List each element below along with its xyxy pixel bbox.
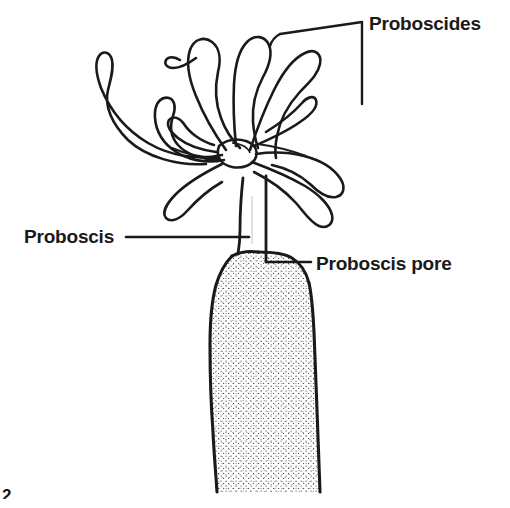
- label-proboscis-pore: Proboscis pore: [316, 254, 452, 273]
- proboscides-bracket: [270, 22, 362, 104]
- label-proboscides: Proboscides: [369, 14, 481, 33]
- figure-container: Proboscides Proboscis Proboscis pore 2: [0, 0, 510, 508]
- figure-number: 2: [2, 487, 11, 499]
- label-proboscis: Proboscis: [24, 227, 114, 246]
- proboscis-stalk: [238, 176, 266, 262]
- body-stippled: [210, 252, 320, 492]
- proboscides-tentacles: [97, 37, 344, 227]
